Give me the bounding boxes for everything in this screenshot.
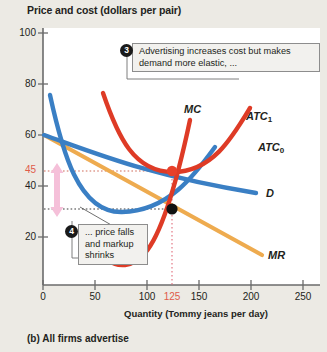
callout-4-box: ... price falls and markup shrinks <box>78 224 148 265</box>
demand-curve-label: D <box>266 187 274 199</box>
x-tick-label-0: 0 <box>33 291 53 302</box>
callout-3-box: Advertising increases cost but makes dem… <box>132 43 320 72</box>
y-tick-label-40: 40 <box>8 180 36 191</box>
x-tick-label-150: 150 <box>187 291 211 302</box>
callout-4-badge: 4 <box>65 225 78 238</box>
y-tick-label-60: 60 <box>8 129 36 140</box>
figure-caption: (b) All firms advertise <box>27 333 129 344</box>
atc1-label-subscript: 1 <box>268 115 272 124</box>
price-marker-dot <box>167 166 177 176</box>
quantity-marker-dot <box>166 203 177 214</box>
atc0-curve-label: ATC0 <box>258 141 284 155</box>
economics-figure: Price and cost (dollars per pair) <box>0 0 327 352</box>
atc1-label-main: ATC <box>246 110 268 122</box>
atc0-label-subscript: 0 <box>280 146 284 155</box>
y-tick-label-80: 80 <box>8 78 36 89</box>
atc0-label-main: ATC <box>258 141 280 153</box>
atc1-curve-label: ATC1 <box>246 110 272 124</box>
y-tick-label-100: 100 <box>8 27 36 38</box>
x-tick-label-125-highlight: 125 <box>160 291 184 302</box>
callout-3-badge: 3 <box>120 44 133 57</box>
x-tick-label-250: 250 <box>291 291 315 302</box>
x-axis-title: Quantity (Tommy jeans per day) <box>124 308 268 319</box>
mr-curve-label: MR <box>268 249 285 261</box>
x-tick-label-200: 200 <box>239 291 263 302</box>
mc-curve-label: MC <box>184 103 201 115</box>
y-tick-label-20: 20 <box>8 231 36 242</box>
x-tick-label-100: 100 <box>135 291 159 302</box>
y-tick-label-45-highlight: 45 <box>8 164 36 175</box>
x-tick-label-50: 50 <box>85 291 105 302</box>
